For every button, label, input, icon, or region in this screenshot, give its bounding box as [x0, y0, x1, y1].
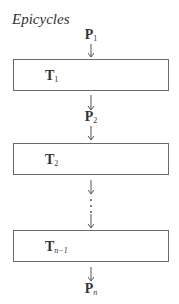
diagram-title: Epicycles: [12, 11, 69, 28]
stage-box-t1: T1: [13, 59, 169, 91]
ellipsis-dot: [90, 211, 92, 213]
arrow-down-icon: [87, 267, 96, 282]
label-t2: T2: [45, 152, 58, 168]
label-p2: P2: [85, 109, 98, 125]
ellipsis-dot: [90, 199, 92, 201]
label-p1: P1: [85, 27, 98, 43]
label-tn-1: Tn−1: [45, 239, 68, 255]
arrow-down-icon: [87, 126, 96, 141]
ellipsis-dot: [90, 205, 92, 207]
arrow-down-icon: [87, 214, 96, 229]
stage-box-tn-1: Tn−1: [13, 230, 169, 262]
label-pn: Pn: [85, 281, 98, 297]
stage-box-t2: T2: [13, 143, 169, 175]
arrow-down-icon: [87, 44, 96, 58]
label-t1: T1: [45, 68, 58, 84]
arrow-down-icon: [87, 180, 96, 195]
